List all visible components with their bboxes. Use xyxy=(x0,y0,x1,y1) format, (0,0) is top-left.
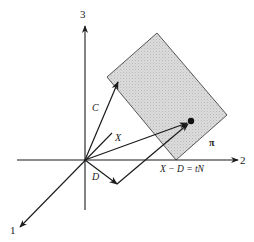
vector-c xyxy=(85,82,118,160)
axis-3-label: 3 xyxy=(80,8,86,20)
vector-d xyxy=(85,160,117,184)
point-x-on-plane xyxy=(188,118,194,124)
axis-2-label: 2 xyxy=(240,154,246,166)
vector-x-minus-d-label: X − D = tN xyxy=(159,164,205,174)
vector-plane-diagram: 3 2 1 C X D X − D = tN π xyxy=(0,0,254,242)
vector-d-label: D xyxy=(91,171,100,182)
plane-pi-label: π xyxy=(209,137,215,148)
vector-c-label: C xyxy=(92,102,99,113)
vector-x-label: X xyxy=(114,132,122,143)
axis-1-label: 1 xyxy=(10,224,16,236)
